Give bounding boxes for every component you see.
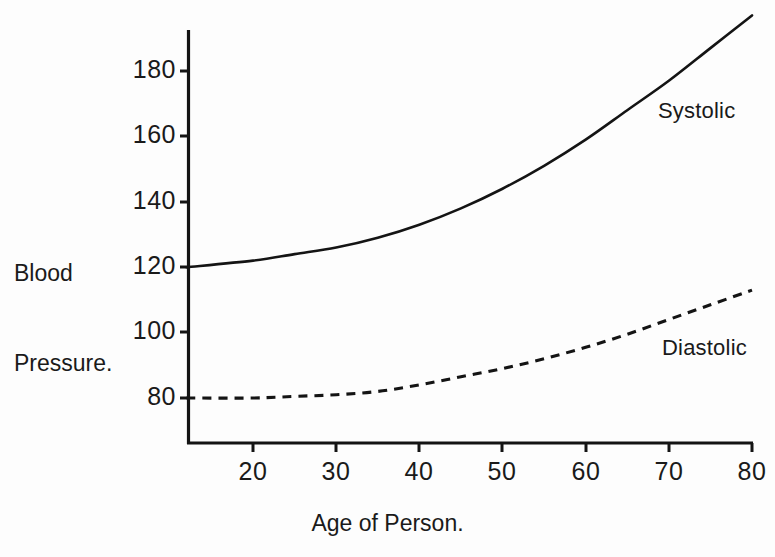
y-tick-label-160: 160 <box>116 122 176 147</box>
x-tick-label-60: 60 <box>556 459 616 484</box>
y-axis-title-line1: Blood <box>14 258 112 288</box>
x-axis-title: Age of Person. <box>0 512 775 535</box>
x-tick-label-30: 30 <box>306 459 366 484</box>
y-tick-label-80: 80 <box>116 384 176 409</box>
y-tick-label-120: 120 <box>116 253 176 278</box>
x-tick-label-70: 70 <box>639 459 699 484</box>
y-tick-label-140: 140 <box>116 188 176 213</box>
chart-container: 180 160 140 120 100 80 20 30 40 50 60 70… <box>0 0 775 557</box>
y-axis-title-line2: Pressure. <box>14 348 112 378</box>
y-tick-label-180: 180 <box>116 57 176 82</box>
y-axis-title: Blood Pressure. <box>14 198 112 438</box>
systolic-curve <box>186 15 752 267</box>
x-tick-label-20: 20 <box>223 459 283 484</box>
x-tick-label-40: 40 <box>389 459 449 484</box>
x-tick-label-80: 80 <box>722 459 775 484</box>
axes-group <box>187 30 753 444</box>
y-tick-label-100: 100 <box>116 318 176 343</box>
diastolic-series-label: Diastolic <box>662 337 747 359</box>
x-tick-label-50: 50 <box>472 459 532 484</box>
systolic-series-label: Systolic <box>658 100 735 122</box>
